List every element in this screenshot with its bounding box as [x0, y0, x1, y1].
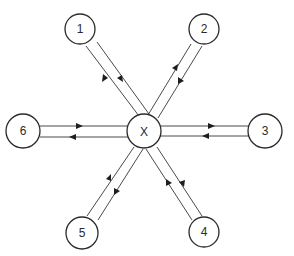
edge-6-x: [40, 123, 128, 140]
arrow-right-icon: [76, 123, 83, 129]
network-diagram: X 1 2 3 4 5 6: [0, 0, 294, 256]
node-2: 2: [189, 14, 219, 44]
link-x-to-2: [148, 44, 191, 115]
edge-4-x: [146, 147, 202, 220]
edge-5-x: [87, 147, 143, 220]
link-x-to-4: [157, 147, 202, 216]
node-label: 3: [262, 124, 269, 138]
node-label: 1: [77, 22, 84, 36]
node-label: 2: [201, 22, 208, 36]
link-x-to-5: [98, 149, 143, 220]
arrow-left-icon: [202, 133, 209, 139]
arrow-right-icon: [208, 123, 215, 129]
node-1: 1: [65, 14, 95, 44]
node-label: 5: [79, 226, 86, 240]
arrow-down-right-icon: [117, 75, 123, 82]
link-x-to-1: [86, 46, 139, 116]
arrow-up-right-icon: [106, 174, 111, 181]
edge-2-x: [148, 44, 202, 118]
node-5: 5: [66, 217, 98, 249]
node-6: 6: [6, 114, 40, 148]
node-label: 4: [201, 225, 208, 239]
arrow-left-icon: [69, 134, 76, 140]
hub-label: X: [140, 125, 148, 139]
node-4: 4: [189, 217, 219, 247]
hub-node-x: X: [127, 114, 161, 148]
link-5-to-x: [87, 147, 134, 216]
node-3: 3: [248, 114, 282, 148]
node-label: 6: [20, 124, 27, 138]
arrow-up-left-icon: [102, 74, 108, 82]
edge-x-3: [160, 123, 249, 139]
arrow-down-left-icon: [178, 77, 184, 84]
edge-1-x: [86, 42, 149, 116]
arrow-down-left-icon: [114, 188, 120, 195]
